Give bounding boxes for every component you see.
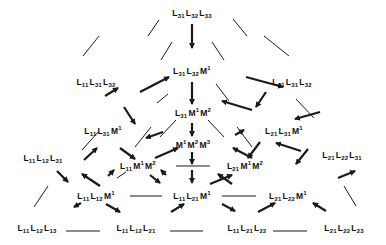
arrow-icon	[276, 143, 301, 151]
term-subscript: 31	[291, 82, 298, 88]
arrow-icon	[258, 203, 275, 212]
term-subscript: 31	[178, 13, 185, 19]
arrow-icon	[57, 171, 68, 182]
connector-line	[34, 186, 48, 207]
node-term: M	[199, 140, 206, 150]
term-subscript: 11	[122, 228, 129, 234]
node-label: L11L12L31	[23, 154, 62, 164]
node-label: L11L12L13	[17, 224, 56, 234]
term-subscript: 32	[191, 13, 198, 19]
connector-line	[208, 120, 224, 137]
term-subscript: 21	[232, 166, 239, 172]
node-label: L11L21M1	[173, 190, 210, 202]
arrow-icon	[74, 203, 81, 207]
node-label: L11L12M1	[77, 190, 114, 202]
term-superscript: 2	[152, 160, 156, 166]
node-label: L11L21L22	[227, 224, 266, 234]
term-subscript: 12	[36, 228, 43, 234]
term-subscript: 31	[55, 158, 62, 164]
arrow-icon	[124, 107, 135, 124]
term-superscript: 1	[118, 125, 122, 131]
term-subscript: 32	[305, 82, 312, 88]
node-label: L21L22L31	[322, 151, 361, 161]
connector-line	[233, 19, 247, 36]
term-superscript: 2	[208, 107, 212, 113]
node-term: M	[188, 108, 195, 118]
node-label: L21L22L23	[324, 224, 363, 234]
term-superscript: 1	[207, 190, 211, 196]
term-subscript: 22	[288, 196, 295, 202]
term-subscript: 13	[49, 228, 56, 234]
connector-line	[161, 42, 172, 60]
term-superscript: 1	[248, 160, 252, 166]
node-label: L31M1M2	[175, 107, 211, 119]
arrow-icon	[106, 204, 120, 212]
term-subscript: 11	[23, 228, 30, 234]
arrow-icon	[338, 171, 355, 178]
term-superscript: 2	[195, 139, 199, 145]
term-subscript: 31	[179, 71, 186, 77]
node-label: L21L22M1	[269, 190, 307, 202]
term-subscript: 12	[42, 158, 49, 164]
node-term: M	[104, 191, 111, 201]
arrow-icon	[108, 170, 114, 176]
arrow-icon	[161, 170, 166, 175]
term-subscript: 12	[135, 228, 142, 234]
node-term: M	[252, 161, 259, 171]
connector-line	[212, 42, 224, 60]
node-label: M1M2M3	[176, 139, 210, 150]
term-subscript: 11	[233, 228, 240, 234]
term-subscript: 31	[95, 82, 102, 88]
node-label: L31L32L33	[172, 9, 211, 19]
term-subscript: 23	[357, 228, 364, 234]
term-subscript: 32	[108, 82, 115, 88]
node-term: M	[240, 161, 247, 171]
lattice-diagram: L31L32L33L31L32M1L11L31L32L21L31L32L31M1…	[0, 0, 386, 245]
term-subscript: 21	[192, 196, 199, 202]
term-subscript: 11	[179, 196, 186, 202]
term-superscript: 1	[183, 139, 187, 145]
term-subscript: 21	[330, 228, 337, 234]
arrow-icon	[171, 204, 184, 212]
term-subscript: 21	[246, 228, 253, 234]
node-label: L21M1M2	[227, 160, 263, 172]
node-label: L31L32M1	[173, 65, 211, 77]
term-subscript: 31	[355, 155, 362, 161]
connector-line	[157, 94, 168, 103]
term-subscript: 21	[271, 131, 278, 137]
term-subscript: 21	[278, 82, 285, 88]
diagram-edges	[0, 0, 386, 245]
node-term: M	[200, 108, 207, 118]
term-superscript: 1	[303, 190, 307, 196]
node-term: M	[111, 126, 118, 136]
term-subscript: 12	[96, 196, 103, 202]
connector-line	[216, 84, 229, 101]
arrow-icon	[313, 203, 326, 211]
term-subscript: 11	[82, 82, 89, 88]
arrow-icon	[233, 148, 252, 158]
term-subscript: 31	[284, 131, 291, 137]
term-subscript: 11	[83, 196, 90, 202]
arrow-icon	[296, 149, 308, 164]
term-subscript: 31	[180, 113, 187, 119]
term-subscript: 32	[192, 71, 199, 77]
term-subscript: 22	[343, 228, 350, 234]
term-superscript: 1	[196, 107, 200, 113]
term-superscript: 2	[260, 160, 264, 166]
arrow-icon	[256, 92, 266, 107]
term-subscript: 11	[29, 158, 36, 164]
term-superscript: 1	[299, 125, 303, 131]
arrow-icon	[150, 175, 160, 183]
arrow-icon	[84, 148, 97, 160]
arrow-icon	[82, 174, 100, 186]
connector-line	[117, 172, 126, 178]
arrow-icon	[155, 148, 178, 158]
connector-line	[237, 127, 252, 147]
term-subscript: 33	[205, 13, 212, 19]
term-subscript: 11	[126, 166, 133, 172]
arrow-icon	[222, 204, 235, 211]
term-subscript: 31	[103, 131, 110, 137]
term-superscript: 1	[207, 65, 211, 71]
arrow-icon	[140, 77, 169, 92]
connector-line	[160, 120, 176, 137]
